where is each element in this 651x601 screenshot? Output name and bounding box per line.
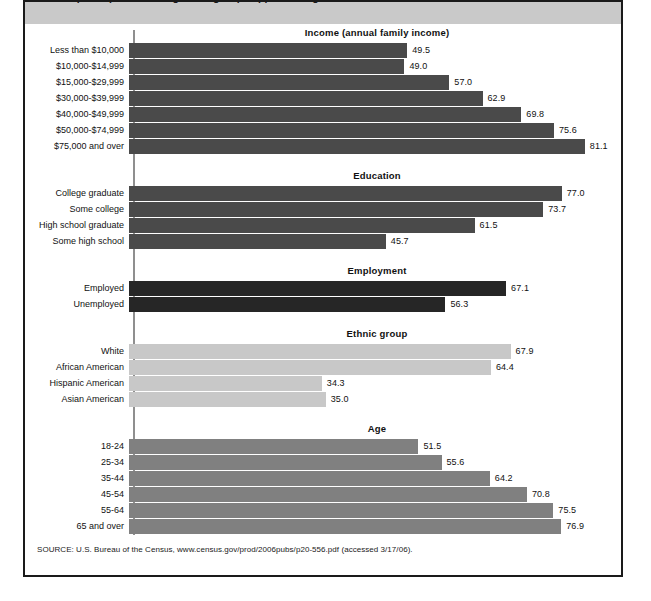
bar-row: 55-6475.5 [25,502,621,518]
category-label: Some college [25,204,129,214]
bar-value-label: 67.9 [511,346,534,356]
bar [129,344,511,359]
bar-row: Hispanic American34.3 [25,375,621,391]
bar-row: 65 and over76.9 [25,518,621,534]
category-label: Less than $10,000 [25,45,129,55]
bar [129,123,554,138]
bar-value-label: 75.5 [553,505,576,515]
section-rows: Employed67.1Unemployed56.3 [25,280,621,312]
bar-value-label: 49.0 [404,61,427,71]
bar-wrap: 73.7 [129,201,621,217]
bar-row: College graduate77.0 [25,185,621,201]
section-rows: College graduate77.0Some college73.7High… [25,185,621,249]
category-label: Hispanic American [25,378,129,388]
category-label: $40,000-$49,999 [25,109,129,119]
category-label: 18-24 [25,441,129,451]
bar-row: $30,000-$39,99962.9 [25,90,621,106]
section-spacer [25,407,621,420]
bar-value-label: 62.9 [483,93,506,103]
bar-value-label: 49.5 [407,45,430,55]
chart-sections: Income (annual family income)Less than $… [25,24,621,534]
bar [129,376,322,391]
bar-wrap: 55.6 [129,454,621,470]
bar [129,218,475,233]
bar-row: Less than $10,00049.5 [25,42,621,58]
bar-row: Unemployed56.3 [25,296,621,312]
category-label: 55-64 [25,505,129,515]
bar [129,234,386,249]
category-label: 25-34 [25,457,129,467]
section-spacer [25,312,621,325]
chart-section: EmploymentEmployed67.1Unemployed56.3 [25,262,621,312]
category-label: Unemployed [25,299,129,309]
bar-value-label: 56.3 [445,299,468,309]
source-note: SOURCE: U.S. Bureau of the Census, www.c… [37,545,413,554]
bar-wrap: 49.5 [129,42,621,58]
chart-section: Age18-2451.525-3455.635-4464.245-5470.85… [25,420,621,534]
bar [129,107,521,122]
category-label: $75,000 and over [25,141,129,151]
bar [129,43,407,58]
chart-plot-area: Income (annual family income)Less than $… [25,24,621,537]
source-note-area: SOURCE: U.S. Bureau of the Census, www.c… [25,533,621,575]
section-title: Ethnic group [25,325,621,343]
section-title: Income (annual family income) [25,24,621,42]
bar-row: High school graduate61.5 [25,217,621,233]
category-label: White [25,346,129,356]
bar-row: Asian American35.0 [25,391,621,407]
bar-value-label: 76.9 [561,521,584,531]
bar-wrap: 69.8 [129,106,621,122]
figure-container: rates of participation among these group… [23,0,623,577]
bar-value-label: 64.2 [490,473,513,483]
bar-wrap: 34.3 [129,375,621,391]
bar [129,471,490,486]
bar [129,59,404,74]
bar-wrap: 64.2 [129,470,621,486]
bar-wrap: 67.9 [129,343,621,359]
bar-wrap: 75.5 [129,502,621,518]
section-title: Age [25,420,621,438]
bar-value-label: 73.7 [543,204,566,214]
bar [129,139,585,154]
bar-value-label: 61.5 [475,220,498,230]
section-rows: Less than $10,00049.5$10,000-$14,99949.0… [25,42,621,154]
bar-value-label: 35.0 [326,394,349,404]
category-label: Asian American [25,394,129,404]
bar-value-label: 34.3 [322,378,345,388]
bar-value-label: 67.1 [506,283,529,293]
bar-value-label: 51.5 [418,441,441,451]
bar [129,75,449,90]
bar [129,202,543,217]
bar-wrap: 56.3 [129,296,621,312]
bar [129,281,506,296]
category-label: High school graduate [25,220,129,230]
category-label: African American [25,362,129,372]
bar-wrap: 64.4 [129,359,621,375]
bar [129,439,418,454]
bar-wrap: 76.9 [129,518,621,534]
section-spacer [25,249,621,262]
bar-wrap: 45.7 [129,233,621,249]
bar-row: Some college73.7 [25,201,621,217]
bar-value-label: 64.4 [491,362,514,372]
bar-row: $10,000-$14,99949.0 [25,58,621,74]
bar-row: 35-4464.2 [25,470,621,486]
bar-row: White67.9 [25,343,621,359]
chart-section: Ethnic groupWhite67.9African American64.… [25,325,621,407]
bar-wrap: 35.0 [129,391,621,407]
section-rows: White67.9African American64.4Hispanic Am… [25,343,621,407]
bar-row: $15,000-$29,99957.0 [25,74,621,90]
category-label: 35-44 [25,473,129,483]
section-title: Employment [25,262,621,280]
chart-section: Income (annual family income)Less than $… [25,24,621,154]
bar-value-label: 45.7 [386,236,409,246]
bar-wrap: 70.8 [129,486,621,502]
bar [129,392,326,407]
bar-row: $40,000-$49,99969.8 [25,106,621,122]
bar-value-label: 77.0 [562,188,585,198]
bar-wrap: 49.0 [129,58,621,74]
bar-row: $50,000-$74,99975.6 [25,122,621,138]
bar-wrap: 62.9 [129,90,621,106]
bar [129,360,491,375]
bar-row: Employed67.1 [25,280,621,296]
